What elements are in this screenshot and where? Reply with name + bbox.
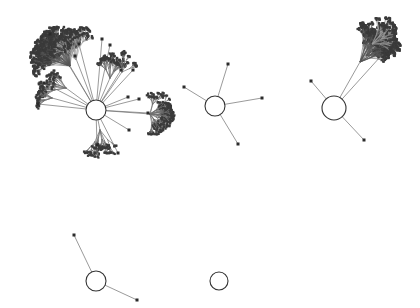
graph-edge-branch bbox=[113, 66, 114, 71]
graph-node-small bbox=[70, 40, 72, 42]
graph-node-small bbox=[46, 80, 48, 82]
graph-edge bbox=[218, 64, 228, 96]
graph-edge-stem bbox=[98, 120, 100, 130]
graph-node-small bbox=[394, 53, 396, 55]
graph-node-small bbox=[39, 95, 41, 97]
graph-node-small bbox=[116, 57, 118, 59]
graph-node-small bbox=[87, 36, 89, 38]
graph-node-small bbox=[392, 37, 394, 39]
graph-node-small bbox=[163, 92, 165, 94]
graph-node-small bbox=[58, 26, 60, 28]
graph-node bbox=[78, 43, 81, 46]
graph-node-small bbox=[393, 55, 395, 57]
graph-edge-branch bbox=[76, 48, 78, 60]
graph-node-small bbox=[113, 53, 115, 55]
graph-node-small bbox=[40, 81, 42, 83]
graph-node-small bbox=[35, 62, 37, 64]
graph-edge-stem bbox=[339, 62, 360, 99]
graph-node-small bbox=[87, 155, 89, 157]
graph-node-small bbox=[392, 43, 394, 45]
graph-node-small bbox=[383, 28, 385, 30]
graph-node-small bbox=[91, 145, 93, 147]
graph-edge bbox=[225, 98, 262, 104]
edges-layer bbox=[38, 34, 381, 300]
graph-node-small bbox=[399, 45, 401, 47]
graph-node-small bbox=[160, 118, 162, 120]
graph-node bbox=[49, 33, 52, 36]
graph-edge bbox=[38, 104, 86, 109]
graph-edge bbox=[105, 115, 129, 130]
graph-node-small bbox=[63, 26, 65, 28]
graph-edge bbox=[184, 87, 206, 101]
network-graph-canvas bbox=[0, 0, 420, 308]
graph-node-small bbox=[64, 45, 66, 47]
graph-node-small bbox=[58, 39, 60, 41]
graph-edge bbox=[105, 285, 137, 300]
graph-node bbox=[101, 38, 104, 41]
graph-node bbox=[73, 234, 76, 237]
graph-node-small bbox=[66, 36, 68, 38]
graph-node-small bbox=[166, 125, 168, 127]
hub-nodes-layer bbox=[86, 96, 346, 291]
graph-node-small bbox=[103, 152, 105, 154]
graph-node-small bbox=[84, 33, 86, 35]
graph-node-small bbox=[374, 29, 376, 31]
graph-node-small bbox=[96, 156, 98, 158]
graph-node-small bbox=[169, 108, 171, 110]
graph-node bbox=[128, 129, 131, 132]
graph-node bbox=[183, 86, 186, 89]
graph-node-small bbox=[153, 94, 155, 96]
graph-node-small bbox=[389, 50, 391, 52]
graph-node-small bbox=[113, 145, 115, 147]
graph-node-small bbox=[382, 56, 384, 58]
hub-node bbox=[86, 100, 106, 120]
graph-node-small bbox=[76, 33, 78, 35]
graph-node-small bbox=[30, 51, 32, 53]
graph-node-small bbox=[60, 76, 62, 78]
graph-node-small bbox=[37, 73, 39, 75]
graph-node-small bbox=[51, 52, 53, 54]
graph-node-small bbox=[42, 89, 44, 91]
graph-node bbox=[37, 103, 40, 106]
graph-node-small bbox=[30, 55, 32, 57]
graph-edge bbox=[97, 39, 102, 100]
graph-node-small bbox=[159, 130, 161, 132]
graph-node bbox=[227, 63, 230, 66]
graph-node-small bbox=[384, 55, 386, 57]
graph-node-small bbox=[372, 23, 374, 25]
graph-node bbox=[127, 96, 130, 99]
graph-node bbox=[109, 44, 112, 47]
hub-node bbox=[205, 96, 225, 116]
graph-node bbox=[310, 80, 313, 83]
graph-edge-stem bbox=[102, 72, 122, 102]
graph-node bbox=[96, 144, 99, 147]
graph-node-small bbox=[377, 45, 379, 47]
graph-node-small bbox=[56, 33, 58, 35]
graph-node-small bbox=[39, 62, 41, 64]
graph-node-small bbox=[156, 97, 158, 99]
graph-node-small bbox=[34, 64, 36, 66]
graph-node-small bbox=[91, 37, 93, 39]
graph-node-small bbox=[383, 51, 385, 53]
graph-edge bbox=[311, 81, 326, 99]
graph-node-small bbox=[383, 26, 385, 28]
graph-edge bbox=[220, 115, 238, 144]
graph-node-small bbox=[77, 36, 79, 38]
graph-edge-branch bbox=[41, 99, 44, 100]
graph-node-small bbox=[128, 56, 130, 58]
graph-node-small bbox=[396, 49, 398, 51]
graph-node-small bbox=[384, 58, 386, 60]
graph-node-small bbox=[113, 61, 115, 63]
graph-node-small bbox=[116, 64, 118, 66]
graph-node-small bbox=[83, 28, 85, 30]
graph-edge bbox=[342, 117, 364, 140]
graph-node-small bbox=[395, 41, 397, 43]
graph-node-small bbox=[80, 26, 82, 28]
graph-node-small bbox=[34, 45, 36, 47]
graph-edge-branch bbox=[55, 88, 66, 90]
graph-node-small bbox=[166, 103, 168, 105]
graph-node-small bbox=[45, 47, 47, 49]
graph-node-small bbox=[89, 151, 91, 153]
graph-edge bbox=[342, 56, 381, 99]
graph-node-small bbox=[166, 95, 168, 97]
